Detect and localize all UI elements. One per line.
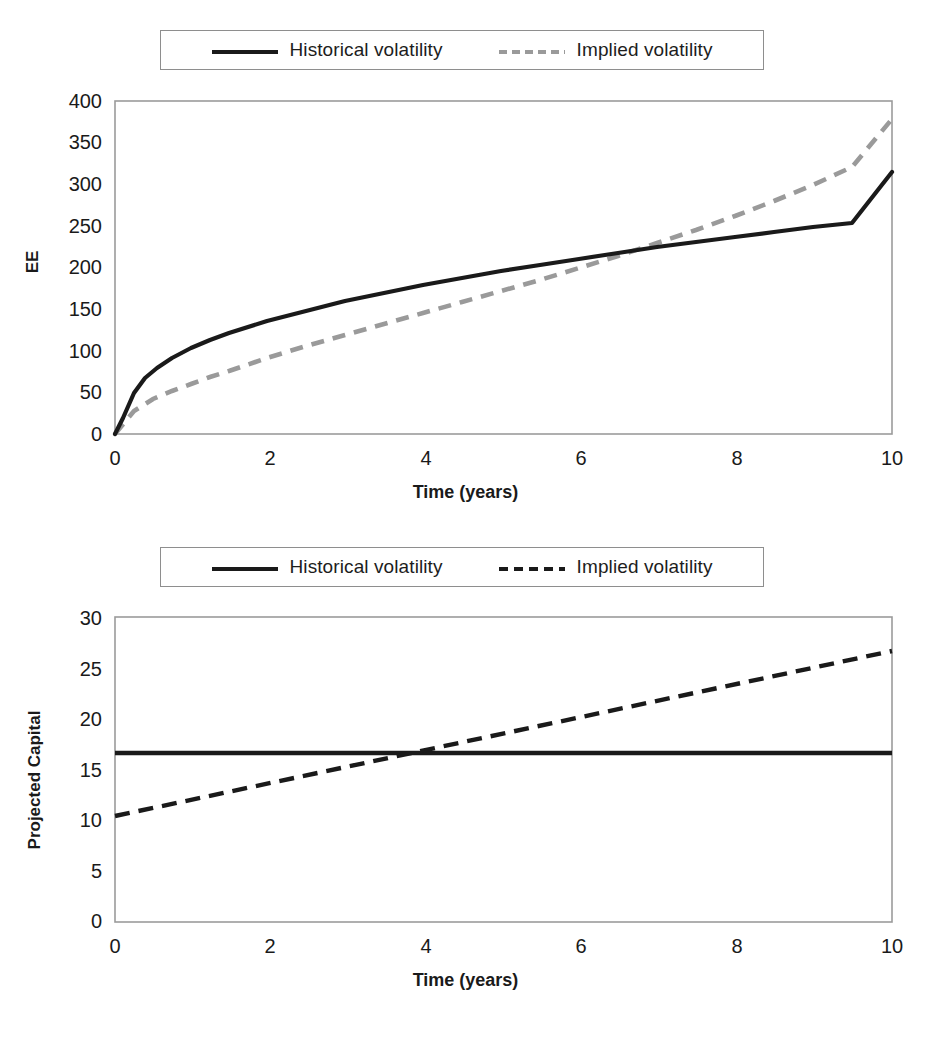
series-line-implied-volatility (115, 119, 892, 434)
chart-page: Historical volatility Implied volatility… (0, 0, 931, 1037)
legend-top: Historical volatility Implied volatility (160, 30, 764, 70)
legend-label-implied-volatility: Implied volatility (577, 39, 713, 61)
legend-label-historical-volatility: Historical volatility (290, 556, 443, 578)
series-line-historical-volatility (115, 172, 892, 434)
legend-label-historical-volatility: Historical volatility (290, 39, 443, 61)
legend-swatch-dashed-icon (499, 561, 565, 573)
y-tick-label: 25 (50, 659, 102, 679)
y-tick-label: 350 (50, 132, 102, 152)
x-tick-label: 2 (240, 936, 300, 956)
legend-entry-historical-volatility: Historical volatility (212, 556, 443, 578)
x-axis-title-bottom: Time (years) (0, 970, 931, 991)
x-axis-title-top: Time (years) (0, 482, 931, 503)
y-tick-label: 100 (50, 341, 102, 361)
y-tick-label: 300 (50, 174, 102, 194)
y-tick-label: 15 (50, 760, 102, 780)
x-tick-label: 10 (862, 936, 922, 956)
x-tick-label: 4 (396, 448, 456, 468)
legend-swatch-solid-icon (212, 44, 278, 56)
legend-swatch-solid-icon (212, 561, 278, 573)
y-tick-label: 10 (50, 810, 102, 830)
figure-ee-vs-time: Historical volatility Implied volatility… (0, 0, 931, 515)
x-tick-label: 2 (240, 448, 300, 468)
y-tick-label: 400 (50, 91, 102, 111)
x-tick-label: 6 (551, 448, 611, 468)
figure-projected-capital-vs-time: Historical volatility Implied volatility… (0, 520, 931, 1037)
y-tick-label: 0 (50, 911, 102, 931)
y-tick-label: 5 (50, 861, 102, 881)
y-tick-label: 50 (50, 382, 102, 402)
x-tick-label: 6 (551, 936, 611, 956)
legend-label-implied-volatility: Implied volatility (577, 556, 713, 578)
y-tick-label: 150 (50, 299, 102, 319)
legend-entry-historical-volatility: Historical volatility (212, 39, 443, 61)
legend-bottom: Historical volatility Implied volatility (160, 547, 764, 587)
legend-swatch-dashed-icon (499, 44, 565, 56)
x-tick-label: 0 (85, 448, 145, 468)
y-axis-title-ee: EE (23, 227, 43, 297)
legend-entry-implied-volatility: Implied volatility (499, 39, 713, 61)
legend-entry-implied-volatility: Implied volatility (499, 556, 713, 578)
y-tick-label: 20 (50, 709, 102, 729)
x-tick-label: 8 (707, 448, 767, 468)
series-line-implied-volatility (115, 651, 892, 816)
x-tick-label: 10 (862, 448, 922, 468)
y-tick-label: 200 (50, 257, 102, 277)
y-tick-label: 30 (50, 608, 102, 628)
x-tick-label: 8 (707, 936, 767, 956)
x-tick-label: 0 (85, 936, 145, 956)
plot-area-top (110, 96, 900, 441)
plot-area-bottom (110, 612, 900, 932)
y-axis-title-projected-capital: Projected Capital (25, 690, 45, 870)
y-tick-label: 250 (50, 216, 102, 236)
y-tick-label: 0 (50, 424, 102, 444)
x-tick-label: 4 (396, 936, 456, 956)
